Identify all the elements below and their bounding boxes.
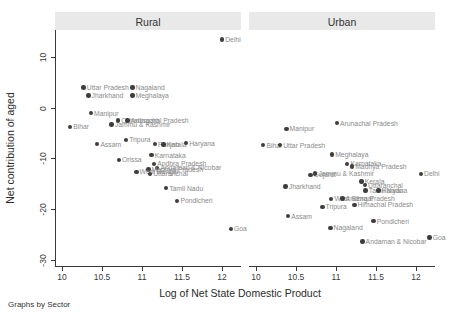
data-point-marker	[330, 152, 335, 157]
data-point-marker	[117, 158, 122, 163]
x-axis-line	[249, 266, 435, 267]
data-point-marker	[340, 196, 345, 201]
data-point-label: Pondicheri	[377, 217, 409, 226]
data-point-label: Goa	[433, 233, 446, 242]
data-point-label: Manipur	[290, 124, 315, 133]
data-point-marker	[161, 142, 166, 147]
x-axis-tick	[296, 267, 297, 271]
data-point-label: Bihar	[73, 122, 89, 131]
panel-title-band: Rural	[55, 12, 241, 30]
data-point-label: Jharkhand	[289, 182, 321, 191]
x-axis-tick	[416, 267, 417, 271]
data-point-marker	[95, 142, 100, 147]
data-point-label: Pondicheri	[180, 196, 212, 205]
data-point-marker	[376, 188, 381, 193]
data-point-marker	[124, 138, 129, 143]
data-point-marker	[419, 172, 424, 177]
data-point-marker	[184, 141, 189, 146]
data-point-marker	[130, 85, 135, 90]
data-point-marker	[81, 85, 86, 90]
data-point-label: Delhi	[225, 35, 241, 44]
x-axis-tick	[182, 267, 183, 271]
x-axis-tick	[222, 267, 223, 271]
data-point-marker	[328, 226, 333, 231]
x-axis-tick-label: 10.5	[282, 272, 310, 282]
x-axis-tick	[62, 267, 63, 271]
data-point-marker	[320, 205, 325, 210]
x-axis-tick	[376, 267, 377, 271]
y-axis-tick-label: -30	[38, 248, 49, 272]
plot-area-rural: DelhiUttar PradeshNagalandJharkhandMegha…	[55, 30, 241, 267]
x-axis-tick-label: 10	[242, 272, 270, 282]
x-axis-tick	[256, 267, 257, 271]
data-point-marker	[134, 170, 139, 175]
data-point-marker	[283, 184, 288, 189]
data-point-marker	[363, 188, 368, 193]
data-point-label: Tripura	[129, 135, 150, 144]
data-point-label: Delhi	[424, 169, 440, 178]
x-axis-tick-label: 11	[128, 272, 156, 282]
data-point-label: Uttar Pradesh	[283, 141, 325, 150]
data-point-marker	[153, 142, 158, 147]
data-point-label: Nagaland	[334, 223, 363, 232]
x-axis-title: Log of Net State Domestic Product	[30, 287, 450, 299]
data-point-marker	[149, 153, 154, 158]
data-point-marker	[164, 186, 169, 191]
data-point-label: Haryana	[189, 139, 215, 148]
data-point-marker	[109, 122, 114, 127]
data-point-label: Himachal Pradesh	[358, 200, 414, 209]
scatter-figure: Net contribution of aged 100-10-20-30 Ru…	[0, 0, 461, 334]
data-point-label: Assam	[100, 140, 121, 149]
data-point-label: Tripura	[326, 202, 347, 211]
figure-footnote: Graphs by Sector	[8, 300, 70, 309]
data-point-label: Tamil Nadu	[169, 184, 203, 193]
y-axis: 100-10-20-30	[0, 30, 55, 267]
data-point-marker	[68, 125, 73, 130]
x-axis-tick	[142, 267, 143, 271]
data-point-label: Jammu & Kashmir	[115, 120, 171, 129]
data-point-label: Andaman & Nicobar	[366, 237, 427, 246]
data-point-marker	[89, 111, 94, 116]
x-axis-line	[55, 266, 241, 267]
x-axis-tick-label: 12	[402, 272, 430, 282]
y-axis-tick-label: -20	[38, 198, 49, 222]
data-point-label: Uttaranchal	[153, 169, 188, 178]
data-point-label: Meghalaya	[335, 150, 368, 159]
data-point-marker	[329, 197, 334, 202]
data-point-label: Orissa	[122, 155, 142, 164]
data-point-label: Arunachal Pradesh	[340, 119, 398, 128]
panel-title-band: Urban	[249, 12, 435, 30]
x-axis-tick	[102, 267, 103, 271]
data-point-marker	[371, 219, 376, 224]
data-point-marker	[352, 203, 357, 208]
data-point-marker	[130, 93, 135, 98]
y-axis-line	[55, 30, 56, 267]
x-axis-tick	[336, 267, 337, 271]
data-point-marker	[363, 183, 368, 188]
x-axis-tick-label: 11	[322, 272, 350, 282]
y-axis-tick-label: 0	[38, 96, 49, 120]
x-axis-tick-label: 10.5	[88, 272, 116, 282]
data-point-marker	[308, 173, 313, 178]
x-axis-tick-label: 12	[208, 272, 236, 282]
data-point-marker	[175, 199, 180, 204]
x-axis-tick-label: 10	[48, 272, 76, 282]
data-point-marker	[286, 214, 291, 219]
y-axis-tick-label: 10	[38, 45, 49, 69]
data-point-label: Goa	[234, 224, 247, 233]
x-axis-tick-label: 11.5	[362, 272, 390, 282]
data-point-marker	[229, 227, 234, 232]
data-point-marker	[345, 162, 350, 167]
data-point-label: Manipur	[94, 109, 119, 118]
data-point-marker	[335, 121, 340, 126]
data-point-marker	[261, 143, 266, 148]
data-point-marker	[86, 93, 91, 98]
data-point-label: Assam	[291, 212, 312, 221]
data-point-marker	[284, 127, 289, 132]
y-axis-tick-label: -10	[38, 147, 49, 171]
panel-title: Rural	[135, 16, 160, 28]
panel-title: Urban	[328, 16, 357, 28]
data-point-marker	[220, 37, 225, 42]
panel-urban: Urban ManipurArunachal PradeshBiharUttar…	[249, 12, 435, 267]
panel-rural: Rural DelhiUttar PradeshNagalandJharkhan…	[55, 12, 241, 267]
